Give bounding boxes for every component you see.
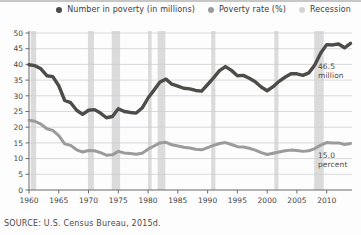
svg-text:1970: 1970 xyxy=(79,196,98,205)
svg-text:35: 35 xyxy=(13,76,23,85)
svg-text:1965: 1965 xyxy=(49,196,68,205)
svg-text:1975: 1975 xyxy=(109,196,128,205)
annotation-15-0-percent: 15.0 percent xyxy=(318,151,347,170)
svg-text:45: 45 xyxy=(13,44,23,53)
svg-text:20: 20 xyxy=(13,123,23,132)
svg-text:5: 5 xyxy=(18,170,23,179)
svg-text:2010: 2010 xyxy=(317,196,336,205)
annotation-46-5-million: 46.5 million xyxy=(318,62,344,81)
svg-text:1995: 1995 xyxy=(228,196,247,205)
svg-text:15: 15 xyxy=(13,139,23,148)
svg-text:1980: 1980 xyxy=(139,196,158,205)
svg-text:25: 25 xyxy=(13,107,23,116)
svg-text:1990: 1990 xyxy=(198,196,217,205)
svg-text:1960: 1960 xyxy=(19,196,38,205)
svg-text:2000: 2000 xyxy=(258,196,277,205)
svg-text:30: 30 xyxy=(13,92,23,101)
svg-text:40: 40 xyxy=(13,60,23,69)
source-note: SOURCE: U.S. Census Bureau, 2015d. xyxy=(4,219,161,228)
svg-text:50: 50 xyxy=(13,29,23,38)
svg-text:10: 10 xyxy=(13,154,23,163)
svg-text:1985: 1985 xyxy=(168,196,187,205)
svg-text:0: 0 xyxy=(18,186,23,195)
svg-text:2005: 2005 xyxy=(287,196,306,205)
poverty-line-chart: 0510152025303540455019601965197019751980… xyxy=(0,0,361,235)
poverty-chart-figure: Number in poverty (in millions) Poverty … xyxy=(0,0,361,235)
